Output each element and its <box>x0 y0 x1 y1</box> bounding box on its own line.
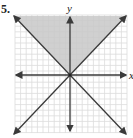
origin-point <box>68 73 71 76</box>
graph: xy <box>0 0 133 138</box>
x-axis-label: x <box>128 69 133 81</box>
y-axis-label: y <box>66 2 72 14</box>
